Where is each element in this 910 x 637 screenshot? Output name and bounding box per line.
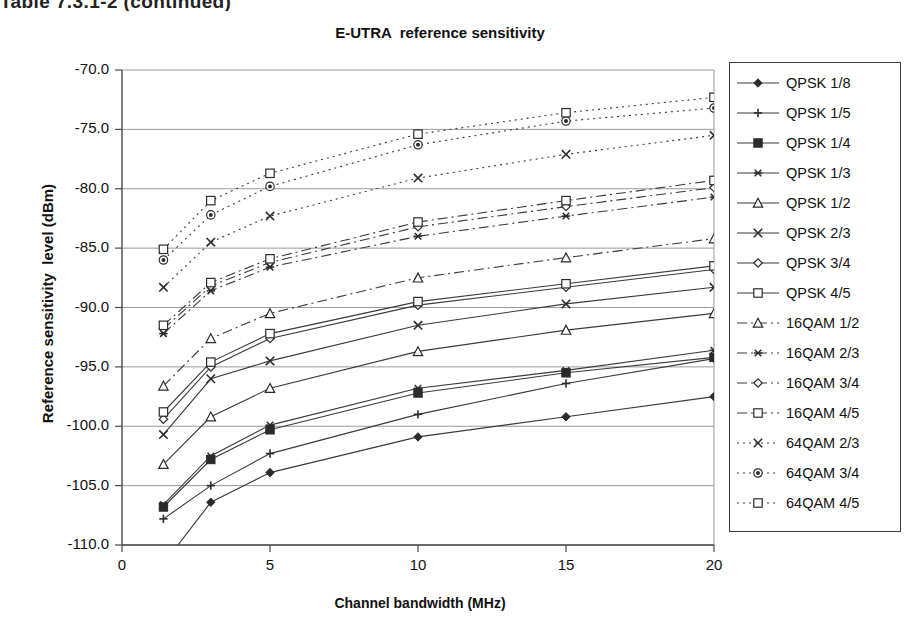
legend-item[interactable]: QPSK 3/4 <box>730 248 900 278</box>
data-point-marker <box>207 196 215 204</box>
series-line <box>159 309 719 469</box>
legend-label: 64QAM 4/5 <box>786 495 859 511</box>
data-point-marker <box>561 253 570 262</box>
y-tick-label: -105.0 <box>29 476 109 493</box>
data-point-marker <box>207 238 215 246</box>
data-point-marker <box>414 297 422 305</box>
data-point-marker <box>159 515 167 523</box>
legend-item[interactable]: QPSK 2/3 <box>730 218 900 248</box>
data-point-marker <box>207 498 215 506</box>
series-line <box>159 176 718 329</box>
legend-label: QPSK 1/8 <box>786 75 850 91</box>
data-point-marker <box>266 468 274 476</box>
series-line <box>159 194 718 337</box>
legend-marker-icon <box>734 164 782 182</box>
data-point-marker <box>414 141 422 149</box>
data-point-marker <box>562 379 570 387</box>
data-point-marker <box>159 245 167 253</box>
y-tick-label: -70.0 <box>29 60 109 77</box>
data-point-marker <box>206 334 215 343</box>
legend-marker-icon <box>734 374 782 392</box>
data-point-marker <box>710 104 718 112</box>
y-tick-label: -100.0 <box>29 416 109 433</box>
data-point-marker <box>207 211 215 219</box>
data-point-marker <box>562 196 570 204</box>
data-point-marker <box>265 309 274 318</box>
data-point-marker <box>266 182 274 190</box>
data-point-marker <box>709 309 718 318</box>
data-point-marker <box>207 358 215 366</box>
legend-item[interactable]: 64QAM 2/3 <box>730 428 900 458</box>
data-point-marker <box>414 410 422 418</box>
legend-item[interactable]: QPSK 4/5 <box>730 278 900 308</box>
y-tick-label: -75.0 <box>29 119 109 136</box>
data-point-marker <box>207 481 215 489</box>
y-tick-label: -80.0 <box>29 179 109 196</box>
legend-label: 16QAM 4/5 <box>786 405 859 421</box>
legend-item[interactable]: 16QAM 2/3 <box>730 338 900 368</box>
data-point-marker <box>266 169 274 177</box>
legend-item[interactable]: QPSK 1/3 <box>730 158 900 188</box>
legend-label: QPSK 1/4 <box>786 135 850 151</box>
data-point-marker <box>710 93 718 101</box>
y-tick-label: -90.0 <box>29 298 109 315</box>
legend-item[interactable]: 16QAM 4/5 <box>730 398 900 428</box>
legend-marker-icon <box>734 404 782 422</box>
legend-label: QPSK 2/3 <box>786 225 850 241</box>
series-line <box>159 265 718 423</box>
y-tick-label: -85.0 <box>29 238 109 255</box>
series-line <box>159 347 718 508</box>
data-point-marker <box>562 213 570 220</box>
legend-label: 64QAM 2/3 <box>786 435 859 451</box>
x-tick-label: 20 <box>694 556 734 573</box>
legend-item[interactable]: 16QAM 3/4 <box>730 368 900 398</box>
data-point-marker <box>710 392 718 400</box>
series-line <box>159 93 718 253</box>
data-point-marker <box>562 117 570 125</box>
legend-marker-icon <box>734 104 782 122</box>
data-point-marker <box>159 256 167 264</box>
series-line <box>159 131 718 291</box>
data-point-marker <box>562 150 570 158</box>
legend-label: 64QAM 3/4 <box>786 465 859 481</box>
legend-marker-icon <box>734 464 782 482</box>
legend-label: QPSK 1/2 <box>786 195 850 211</box>
data-point-marker <box>414 389 422 397</box>
data-point-marker <box>207 375 215 383</box>
data-point-marker <box>266 212 274 220</box>
y-tick-label: -110.0 <box>29 535 109 552</box>
series-line <box>159 353 718 511</box>
legend-label: 16QAM 3/4 <box>786 375 859 391</box>
data-point-marker <box>207 278 215 286</box>
data-point-marker <box>562 109 570 117</box>
data-point-marker <box>709 234 718 243</box>
data-series-layer <box>159 93 719 568</box>
legend-item[interactable]: QPSK 1/4 <box>730 128 900 158</box>
figure-page: Table 7.3.1-2 (continued) E-UTRA referen… <box>0 0 910 637</box>
data-point-marker <box>159 430 167 438</box>
data-point-marker <box>266 357 274 365</box>
legend-item[interactable]: 64QAM 4/5 <box>730 488 900 518</box>
legend-label: QPSK 3/4 <box>786 255 850 271</box>
data-point-marker <box>710 176 718 184</box>
y-tick-label: -95.0 <box>29 357 109 374</box>
data-point-marker <box>414 130 422 138</box>
legend-item[interactable]: 64QAM 3/4 <box>730 458 900 488</box>
data-point-marker <box>266 329 274 337</box>
legend-item[interactable]: QPSK 1/2 <box>730 188 900 218</box>
legend-marker-icon <box>734 254 782 272</box>
legend-marker-icon <box>734 494 782 512</box>
data-point-marker <box>159 408 167 416</box>
x-tick-label: 0 <box>102 556 142 573</box>
legend-marker-icon <box>734 134 782 152</box>
legend-item[interactable]: 16QAM 1/2 <box>730 308 900 338</box>
legend-marker-icon <box>734 284 782 302</box>
series-line <box>159 183 718 333</box>
data-point-marker <box>159 321 167 329</box>
legend-item[interactable]: QPSK 1/5 <box>730 98 900 128</box>
data-point-marker <box>562 280 570 288</box>
legend-item[interactable]: QPSK 1/8 <box>730 68 900 98</box>
data-point-marker <box>562 413 570 421</box>
series-line <box>159 392 718 568</box>
x-tick-label: 15 <box>546 556 586 573</box>
